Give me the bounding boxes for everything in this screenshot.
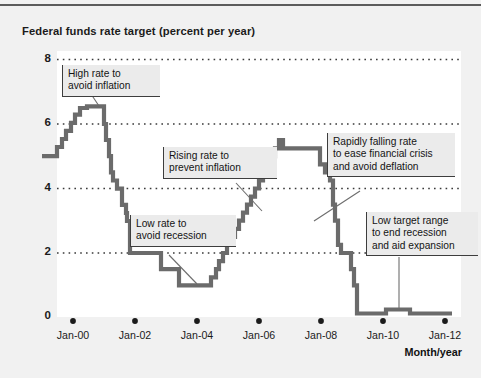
x-tick-label-jan12: Jan-12 <box>413 329 477 341</box>
chart-svg <box>0 6 481 378</box>
y-tick-label-4: 4 <box>29 181 51 193</box>
x-tick-label-jan04: Jan-04 <box>165 329 229 341</box>
y-tick-label-8: 8 <box>29 52 51 64</box>
x-tick-markers <box>70 318 448 324</box>
annotation-rapidly-falling: Rapidly falling rate to ease financial c… <box>327 133 455 177</box>
y-tick-label-2: 2 <box>29 245 51 257</box>
x-tick-dot-jan10 <box>380 318 386 324</box>
x-tick-dot-jan08 <box>318 318 324 324</box>
x-tick-dot-jan06 <box>256 318 262 324</box>
y-tick-label-6: 6 <box>29 116 51 128</box>
x-axis-title: Month/year <box>404 346 462 358</box>
x-tick-dot-jan02 <box>132 318 138 324</box>
annotation-rising-rate: Rising rate to prevent inflation <box>163 147 277 179</box>
figure-panel: Federal funds rate target (percent per y… <box>0 6 481 378</box>
annotation-low-rate: Low rate to avoid recession <box>130 215 236 247</box>
y-tick-label-0: 0 <box>29 309 51 321</box>
x-tick-dot-jan12 <box>442 318 448 324</box>
x-tick-label-jan08: Jan-08 <box>289 329 353 341</box>
x-tick-label-jan00: Jan-00 <box>41 329 105 341</box>
x-tick-label-jan02: Jan-02 <box>103 329 167 341</box>
x-tick-label-jan10: Jan-10 <box>351 329 415 341</box>
annotation-low-target-range: Low target range to end recession and ai… <box>366 212 478 256</box>
annotation-high-rate: High rate to avoid inflation <box>62 65 160 97</box>
x-tick-dot-jan00 <box>70 318 76 324</box>
x-tick-label-jan06: Jan-06 <box>227 329 291 341</box>
x-tick-dot-jan04 <box>194 318 200 324</box>
